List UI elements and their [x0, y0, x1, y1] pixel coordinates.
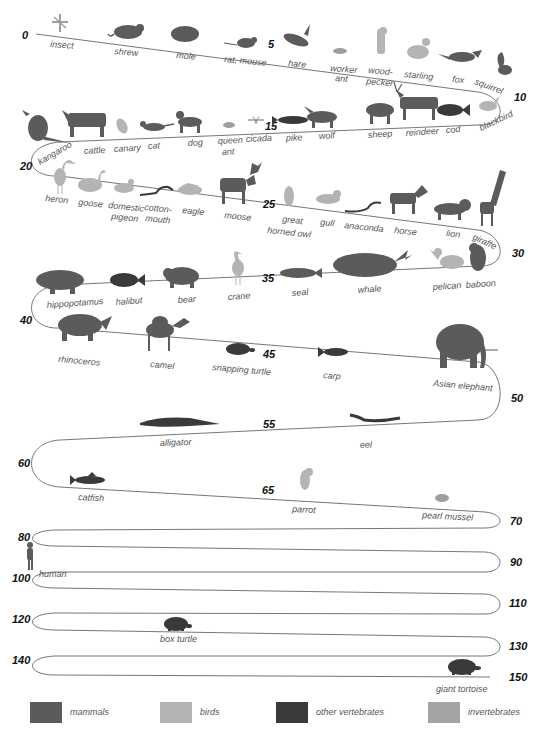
label-fox: fox — [452, 74, 465, 85]
label-cod: cod — [445, 124, 461, 135]
box-turtle-icon — [164, 617, 192, 631]
label-goose: goose — [78, 197, 103, 210]
tick-40: 40 — [19, 314, 33, 326]
label-eagle: eagle — [182, 205, 205, 217]
dog-icon — [176, 111, 202, 133]
label-heron: heron — [45, 193, 69, 205]
horse-icon — [390, 185, 428, 214]
tick-150: 150 — [509, 671, 528, 683]
label-rat-mouse: rat, mouse — [224, 54, 267, 68]
legend: mammals birds other vertebrates inverteb… — [0, 700, 547, 726]
cod-icon — [437, 104, 470, 116]
label-whale: whale — [357, 283, 381, 295]
pelican-icon — [430, 248, 464, 269]
tick-25: 25 — [262, 198, 276, 210]
hare-icon — [282, 24, 310, 49]
great-horned-owl-icon — [284, 186, 294, 206]
label-moose: moose — [224, 210, 252, 223]
heron-icon — [54, 160, 76, 194]
label-carp: carp — [323, 370, 341, 381]
giraffe-icon — [480, 170, 506, 226]
label-worker-ant-2: ant — [335, 73, 349, 84]
label-queen-ant-1: queen — [218, 135, 244, 146]
gull-icon — [316, 190, 341, 204]
label-anaconda: anaconda — [344, 220, 384, 234]
tick-90: 90 — [510, 556, 523, 568]
alligator-icon — [140, 418, 220, 427]
tick-55: 55 — [263, 418, 276, 430]
label-insect: insect — [50, 39, 75, 51]
sheep-icon — [366, 103, 394, 124]
label-parrot: parrot — [291, 504, 316, 515]
tick-80: 80 — [18, 531, 31, 543]
halibut-icon — [110, 273, 145, 287]
label-cat: cat — [148, 140, 161, 151]
label-owl-1: great — [282, 214, 304, 226]
label-cattle: cattle — [84, 145, 106, 156]
label-horse: horse — [394, 225, 417, 237]
hippopotamus-icon — [36, 270, 84, 294]
seal-icon — [280, 268, 322, 278]
whale-icon — [333, 250, 412, 277]
lion-icon — [434, 199, 471, 220]
catfish-icon — [70, 472, 105, 485]
label-hippopotamus: hippopotamus — [46, 296, 104, 310]
label-halibut: halibut — [115, 295, 143, 307]
domestic-pigeon-icon — [114, 179, 134, 193]
label-reindeer: reindeer — [405, 126, 440, 138]
label-giant-tortoise: giant tortoise — [436, 684, 488, 694]
baboon-icon — [469, 243, 486, 271]
rhinoceros-icon — [58, 314, 112, 341]
legend-swatch-invertebrates — [428, 702, 460, 723]
cat-icon — [140, 121, 174, 131]
parrot-icon — [300, 468, 313, 490]
legend-item-invertebrates: invertebrates — [428, 700, 520, 724]
camel-icon — [146, 316, 190, 351]
label-camel: camel — [150, 359, 176, 371]
label-mole: mole — [176, 50, 196, 62]
legend-label-birds: birds — [200, 707, 220, 717]
cattle-icon — [62, 110, 106, 137]
label-gull: gull — [320, 217, 336, 229]
legend-swatch-other-vertebrates — [276, 702, 308, 723]
tick-30: 30 — [512, 247, 525, 259]
blackbird-icon — [479, 96, 500, 111]
label-baboon: baboon — [465, 278, 496, 290]
crane-icon — [232, 251, 244, 285]
label-asian-elephant: Asian elephant — [432, 378, 494, 393]
tick-15: 15 — [265, 120, 278, 132]
fox-icon — [438, 50, 482, 62]
pearl-mussel-icon — [435, 494, 449, 502]
label-shrew: shrew — [114, 46, 139, 58]
label-cottonmouth-2: mouth — [145, 213, 171, 226]
tick-50: 50 — [511, 392, 524, 404]
woodpecker-icon — [377, 27, 387, 54]
label-box-turtle: box turtle — [160, 634, 197, 644]
label-seal: seal — [291, 287, 309, 298]
kangaroo-icon — [22, 110, 70, 143]
tick-35: 35 — [262, 272, 275, 284]
cicada-icon — [248, 115, 264, 125]
label-hare: hare — [288, 58, 307, 70]
label-pigeon-2: pigeon — [110, 211, 139, 224]
queen-ant-icon — [223, 122, 235, 128]
legend-label-mammals: mammals — [70, 707, 109, 717]
tick-0: 0 — [22, 29, 29, 41]
tick-5: 5 — [268, 38, 275, 50]
tick-110: 110 — [509, 597, 527, 609]
label-owl-2: horned owl — [267, 225, 313, 240]
lifespan-timeline-diagram: 0 5 10 15 20 25 30 35 40 45 50 55 60 65 … — [0, 0, 547, 745]
snapping-turtle-icon — [226, 343, 255, 355]
pike-icon — [272, 116, 308, 124]
squirrel-icon — [497, 52, 512, 75]
tick-20: 20 — [19, 160, 33, 172]
label-crane: crane — [227, 290, 250, 302]
tick-70: 70 — [510, 515, 523, 527]
shrew-icon — [108, 24, 144, 39]
tick-10: 10 — [514, 91, 527, 103]
label-canary: canary — [114, 143, 142, 154]
label-rhinoceros: rhinoceros — [58, 354, 101, 368]
tick-45: 45 — [262, 348, 276, 360]
label-snapping-turtle: snapping turtle — [212, 362, 272, 377]
tick-65: 65 — [262, 484, 275, 496]
